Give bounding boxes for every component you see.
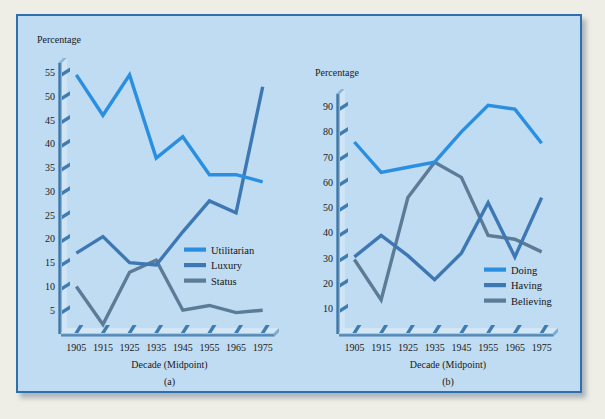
legend-label-believing: Believing: [511, 296, 553, 307]
y-tick-label: 40: [323, 227, 333, 238]
x-tick-label: 1975: [253, 342, 273, 353]
x-axis-title-b: Decade (Midpoint): [410, 359, 486, 371]
x-tick-label: 1965: [226, 342, 246, 353]
y-tick-label: 10: [45, 281, 55, 292]
x-axis-title-a: Decade (Midpoint): [131, 359, 207, 371]
legend-swatch-status: [184, 279, 206, 283]
legend-swatch-doing: [484, 268, 506, 272]
y-tick-label: 80: [323, 126, 333, 137]
y-tick-label: 20: [45, 233, 55, 244]
x-tick-label: 1975: [532, 342, 552, 353]
chart-b: 1020304050607080901905191519251935194519…: [301, 16, 584, 395]
y-tick-label: 90: [323, 101, 333, 112]
x-tick-label: 1915: [93, 342, 113, 353]
y-tick-label: 10: [323, 303, 333, 314]
x-tick-label: 1905: [344, 342, 364, 353]
y-tick-label: 25: [45, 210, 55, 221]
chart-plot-b: 1020304050607080901905191519251935194519…: [301, 16, 584, 395]
legend-label-luxury: Luxury: [211, 260, 243, 271]
x-tick-label: 1925: [398, 342, 418, 353]
x-tick-label: 1935: [425, 342, 445, 353]
y-axis-ticks-b: 102030405060708090: [323, 101, 348, 314]
series-line-utilitarian: [76, 75, 262, 182]
y-tick-label: 50: [323, 202, 333, 213]
x-tick-label: 1955: [199, 342, 219, 353]
legend-label-doing: Doing: [511, 265, 538, 276]
legend-b: DoingHavingBelieving: [484, 265, 553, 307]
y-tick-label: 30: [323, 253, 333, 264]
x-tick-label: 1965: [505, 342, 525, 353]
y-tick-label: 35: [45, 162, 55, 173]
figure-canvas: 5101520253035404550551905191519251935194…: [0, 0, 605, 419]
legend-swatch-believing: [484, 299, 506, 303]
y-tick-label: 70: [323, 152, 333, 163]
x-tick-label: 1955: [478, 342, 498, 353]
legend-swatch-having: [484, 283, 506, 287]
y-tick-label: 40: [45, 138, 55, 149]
y-tick-label: 50: [45, 91, 55, 102]
y-tick-label: 5: [50, 305, 55, 316]
y-tick-label: 60: [323, 177, 333, 188]
figure-panel: 5101520253035404550551905191519251935194…: [16, 14, 582, 393]
legend-a: UtilitarianLuxuryStatus: [184, 245, 255, 287]
y-axis-title-b: Percentage: [315, 67, 359, 78]
x-tick-label: 1915: [371, 342, 391, 353]
chart-caption-b: (b): [442, 376, 454, 388]
y-tick-label: 45: [45, 115, 55, 126]
legend-swatch-utilitarian: [184, 248, 206, 252]
x-tick-label: 1935: [146, 342, 166, 353]
y-tick-label: 30: [45, 186, 55, 197]
chart-a: 5101520253035404550551905191519251935194…: [18, 16, 306, 395]
legend-label-status: Status: [211, 276, 237, 287]
legend-swatch-luxury: [184, 263, 206, 267]
y-tick-label: 15: [45, 257, 55, 268]
y-axis-title-a: Percentage: [37, 34, 81, 45]
x-tick-label: 1925: [120, 342, 140, 353]
chart-caption-a: (a): [164, 376, 175, 388]
y-tick-label: 20: [323, 278, 333, 289]
series-line-doing: [354, 105, 541, 172]
legend-label-having: Having: [511, 280, 543, 291]
chart-plot-a: 5101520253035404550551905191519251935194…: [18, 16, 306, 395]
x-tick-label: 1945: [451, 342, 471, 353]
y-tick-label: 55: [45, 67, 55, 78]
x-tick-label: 1905: [66, 342, 86, 353]
x-tick-label: 1945: [173, 342, 193, 353]
legend-label-utilitarian: Utilitarian: [211, 245, 255, 256]
